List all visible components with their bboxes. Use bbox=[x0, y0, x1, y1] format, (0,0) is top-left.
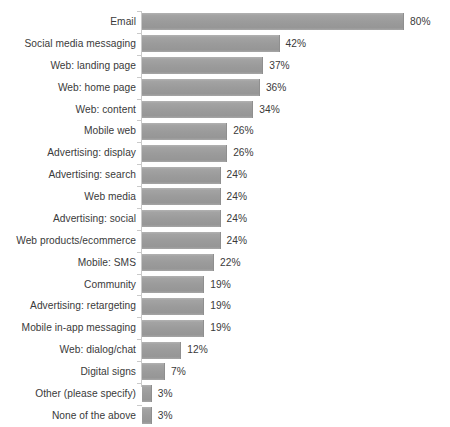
axis-tick bbox=[137, 142, 142, 143]
axis-tick bbox=[137, 186, 142, 187]
bar-row: Digital signs7% bbox=[0, 361, 450, 383]
bar-value-label: 12% bbox=[187, 339, 208, 361]
category-label: Advertising: retargeting bbox=[0, 295, 136, 317]
axis-tick bbox=[137, 274, 142, 275]
bar-value-label: 24% bbox=[227, 208, 248, 230]
category-label: Web media bbox=[0, 186, 136, 208]
bar-row: Web: home page36% bbox=[0, 77, 450, 99]
category-label: Web: home page bbox=[0, 77, 136, 99]
category-label: Advertising: social bbox=[0, 208, 136, 230]
bar-row: Other (please specify)3% bbox=[0, 383, 450, 405]
category-label: Web: landing page bbox=[0, 55, 136, 77]
category-label: Email bbox=[0, 11, 136, 33]
bar-value-label: 37% bbox=[269, 55, 290, 77]
bar-row: Advertising: retargeting19% bbox=[0, 295, 450, 317]
bar-row: Mobile: SMS22% bbox=[0, 252, 450, 274]
bar bbox=[142, 101, 253, 118]
bar bbox=[142, 145, 227, 162]
category-label: Mobile web bbox=[0, 120, 136, 142]
bar bbox=[142, 210, 221, 227]
category-label: Mobile in-app messaging bbox=[0, 317, 136, 339]
axis-tick bbox=[137, 33, 142, 34]
bar-value-label: 26% bbox=[233, 142, 254, 164]
axis-tick bbox=[137, 99, 142, 100]
bar-value-label: 19% bbox=[210, 295, 231, 317]
axis-tick bbox=[137, 361, 142, 362]
bar bbox=[142, 342, 181, 359]
axis-tick bbox=[137, 164, 142, 165]
bar bbox=[142, 385, 152, 402]
bar bbox=[142, 188, 221, 205]
bar-value-label: 19% bbox=[210, 317, 231, 339]
category-label: Advertising: search bbox=[0, 164, 136, 186]
bar bbox=[142, 57, 263, 74]
bar bbox=[142, 35, 280, 52]
bar-row: Web products/ecommerce24% bbox=[0, 230, 450, 252]
bar-row: Mobile in-app messaging19% bbox=[0, 317, 450, 339]
bar-row: None of the above3% bbox=[0, 405, 450, 427]
bar-value-label: 7% bbox=[171, 361, 186, 383]
bar-value-label: 24% bbox=[227, 230, 248, 252]
bar-row: Web: dialog/chat12% bbox=[0, 339, 450, 361]
bar-value-label: 34% bbox=[259, 99, 280, 121]
bar bbox=[142, 276, 204, 293]
bar-value-label: 3% bbox=[158, 383, 173, 405]
bar-row: Web: landing page37% bbox=[0, 55, 450, 77]
bar-value-label: 36% bbox=[266, 77, 287, 99]
bar bbox=[142, 254, 214, 271]
category-label: Advertising: display bbox=[0, 142, 136, 164]
axis-tick bbox=[137, 77, 142, 78]
category-label: Community bbox=[0, 274, 136, 296]
axis-tick bbox=[137, 405, 142, 406]
bar-row: Advertising: social24% bbox=[0, 208, 450, 230]
axis-tick bbox=[137, 55, 142, 56]
bar-value-label: 26% bbox=[233, 120, 254, 142]
axis-tick bbox=[137, 120, 142, 121]
bar-row: Web: content34% bbox=[0, 99, 450, 121]
bar-value-label: 22% bbox=[220, 252, 241, 274]
bar bbox=[142, 167, 221, 184]
axis-tick bbox=[137, 11, 142, 12]
bar bbox=[142, 123, 227, 140]
bar bbox=[142, 13, 404, 30]
bar-value-label: 19% bbox=[210, 274, 231, 296]
bar bbox=[142, 363, 165, 380]
bar-row: Social media messaging42% bbox=[0, 33, 450, 55]
bar-value-label: 42% bbox=[286, 33, 307, 55]
category-label: Digital signs bbox=[0, 361, 136, 383]
bar-row: Advertising: search24% bbox=[0, 164, 450, 186]
bar-value-label: 80% bbox=[410, 11, 431, 33]
axis-tick bbox=[137, 383, 142, 384]
axis-tick bbox=[137, 208, 142, 209]
category-label: Other (please specify) bbox=[0, 383, 136, 405]
axis-tick bbox=[137, 339, 142, 340]
bar-row: Advertising: display26% bbox=[0, 142, 450, 164]
axis-tick bbox=[137, 317, 142, 318]
bar-row: Mobile web26% bbox=[0, 120, 450, 142]
axis-tick bbox=[137, 295, 142, 296]
axis-tick bbox=[137, 252, 142, 253]
bar-row: Email80% bbox=[0, 11, 450, 33]
bar bbox=[142, 407, 152, 424]
category-label: Social media messaging bbox=[0, 33, 136, 55]
category-label: None of the above bbox=[0, 405, 136, 427]
category-label: Web: dialog/chat bbox=[0, 339, 136, 361]
bar-value-label: 3% bbox=[158, 405, 173, 427]
category-label: Web products/ecommerce bbox=[0, 230, 136, 252]
axis-tick bbox=[137, 230, 142, 231]
category-label: Mobile: SMS bbox=[0, 252, 136, 274]
category-label: Web: content bbox=[0, 99, 136, 121]
bar-value-label: 24% bbox=[227, 164, 248, 186]
bar bbox=[142, 232, 221, 249]
bar bbox=[142, 79, 260, 96]
bar-value-label: 24% bbox=[227, 186, 248, 208]
bar bbox=[142, 320, 204, 337]
bar-row: Web media24% bbox=[0, 186, 450, 208]
bar bbox=[142, 298, 204, 315]
bar-row: Community19% bbox=[0, 274, 450, 296]
